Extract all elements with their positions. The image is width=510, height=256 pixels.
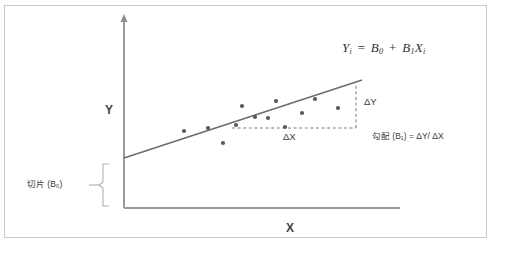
equation-b0: B	[371, 40, 379, 55]
delta-x-label: ΔX	[283, 132, 296, 142]
equation-y: Y	[342, 40, 350, 55]
intercept-annotation: 切片 (B₀)	[27, 180, 62, 189]
data-point	[221, 141, 225, 145]
delta-y-label: ΔY	[364, 97, 377, 107]
data-point	[206, 126, 210, 130]
equation-sub-zero: 0	[379, 47, 383, 56]
data-point	[336, 106, 340, 110]
y-axis	[121, 14, 128, 208]
data-point	[266, 116, 270, 120]
data-point	[240, 104, 244, 108]
regression-line	[124, 80, 362, 158]
slope-annotation: 勾配 (B₁) = ΔY/ ΔX	[372, 132, 444, 141]
equation-plus: +	[387, 40, 399, 55]
scatter-points	[182, 97, 340, 145]
plot-graphics	[0, 0, 510, 256]
data-point	[283, 125, 287, 129]
x-axis-label: X	[286, 222, 294, 234]
data-point	[300, 111, 304, 115]
equation-sub-i-2: i	[423, 47, 426, 56]
y-axis-label: Y	[105, 104, 113, 116]
equation-sub-one: 1	[410, 47, 414, 56]
equation-equals: =	[356, 40, 368, 55]
data-point	[182, 129, 186, 133]
data-point	[234, 123, 238, 127]
equation-x: X	[415, 40, 423, 55]
figure-canvas: Yi = B0 + B1Xi Y X ΔY ΔX 勾配 (B₁) = ΔY/ Δ…	[0, 0, 510, 256]
data-point	[253, 115, 257, 119]
data-point	[274, 99, 278, 103]
equation-sub-i: i	[350, 47, 353, 56]
regression-equation: Yi = B0 + B1Xi	[342, 40, 426, 56]
data-point	[313, 97, 317, 101]
intercept-brace	[89, 164, 109, 206]
